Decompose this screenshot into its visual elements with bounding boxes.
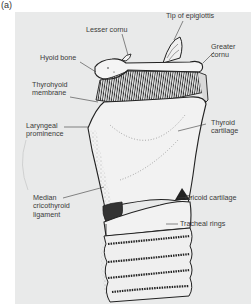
label-hyoid-bone: Hyoid bone: [40, 54, 76, 62]
faint-outline: [22, 140, 28, 190]
thyroid-cartilage: [88, 97, 206, 208]
label-laryngeal-prominence: Laryngeal prominence: [26, 122, 64, 139]
label-thyroid-cartilage: Thyroid cartilage: [211, 119, 238, 136]
label-laryngeal-prominence-line2: prominence: [26, 130, 64, 138]
label-median-cricothyroid-ligament-line3: ligament: [33, 211, 70, 219]
label-greater-cornu-line2: cornu: [211, 51, 235, 59]
label-greater-cornu: Greater cornu: [211, 43, 235, 60]
label-median-cricothyroid-ligament: Median cricothyroid ligament: [33, 194, 70, 219]
trachea: [103, 228, 192, 302]
label-tip-of-epiglottis: Tip of epiglottis: [166, 12, 214, 20]
label-thyrohyoid-membrane: Thyrohyoid membrane: [32, 81, 68, 98]
epiglottis: [163, 37, 182, 63]
label-thyroid-cartilage-line2: cartilage: [211, 127, 238, 135]
label-thyrohyoid-membrane-line2: membrane: [32, 89, 68, 97]
label-lesser-cornu: Lesser cornu: [86, 26, 128, 34]
label-tracheal-rings: Tracheal rings: [180, 220, 225, 228]
label-cricoid-cartilage: Cricoid cartilage: [185, 194, 237, 202]
